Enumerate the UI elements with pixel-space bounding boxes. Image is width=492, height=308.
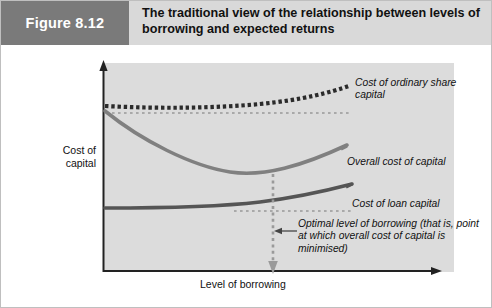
figure-title: The traditional view of the relationship… bbox=[142, 6, 482, 37]
figure-container: Figure 8.12 The traditional view of the … bbox=[0, 0, 492, 308]
figure-number-label: Figure 8.12 bbox=[26, 15, 105, 31]
chart-area: Cost of capital Level of borrowing Cost … bbox=[2, 46, 491, 307]
y-axis bbox=[99, 60, 107, 272]
series-label-cost-of-loan-capital: Cost of loan capital bbox=[352, 198, 472, 210]
series-cost-of-ordinary-share-capital bbox=[105, 86, 349, 108]
y-axis-label: Cost of capital bbox=[30, 144, 96, 169]
series-label-overall-cost-of-capital: Overall cost of capital bbox=[347, 156, 467, 168]
figure-header-band: Figure 8.12 The traditional view of the … bbox=[1, 1, 491, 45]
annotation-leader-arrow bbox=[274, 228, 297, 234]
annotation-optimal-level-of-borrowing: Optimal level of borrowing (that is, poi… bbox=[298, 218, 484, 255]
x-axis-label: Level of borrowing bbox=[200, 278, 360, 291]
optimum-drop-line bbox=[268, 174, 278, 274]
figure-number-block: Figure 8.12 bbox=[1, 1, 129, 45]
series-cost-of-loan-capital bbox=[105, 184, 352, 208]
series-overall-cost-of-capital bbox=[105, 111, 347, 173]
series-label-ordinary-share-capital: Cost of ordinary share capital bbox=[355, 77, 487, 102]
